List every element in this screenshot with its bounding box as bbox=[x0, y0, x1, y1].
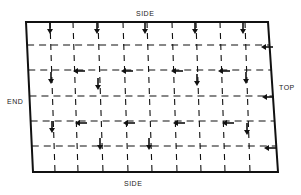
label-right-top: TOP bbox=[279, 84, 295, 91]
arrow-down-icon bbox=[243, 72, 249, 84]
dashed-grid bbox=[27, 22, 276, 172]
arrow-left-icon bbox=[218, 68, 230, 74]
arrow-left-icon bbox=[261, 44, 273, 50]
arrow-left-icon bbox=[171, 68, 183, 74]
arrow-left-icon bbox=[121, 68, 133, 74]
arrow-down-icon bbox=[192, 22, 198, 34]
arrow-down-icon bbox=[49, 121, 55, 133]
arrow-layer bbox=[47, 22, 276, 151]
arrow-down-icon bbox=[47, 22, 53, 34]
label-bottom-side: SIDE bbox=[124, 180, 142, 187]
arrow-down-icon bbox=[194, 74, 200, 86]
label-left-end: END bbox=[7, 98, 23, 105]
flow-diagram bbox=[0, 0, 301, 195]
label-top-side: SIDE bbox=[136, 10, 154, 17]
arrow-down-icon bbox=[94, 22, 100, 34]
arrow-down-icon bbox=[48, 72, 54, 84]
